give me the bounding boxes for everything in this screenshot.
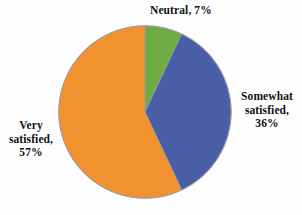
pie-chart-area	[58, 25, 232, 199]
pie-label-very-line1: Very	[0, 119, 62, 133]
pie-label-neutral: Neutral, 7%	[150, 4, 212, 18]
pie-slices	[59, 26, 231, 198]
pie-label-very-line3: 57%	[0, 146, 62, 160]
pie-chart-figure: Neutral, 7% Somewhat satisfied, 36% Very…	[0, 0, 302, 215]
pie-label-very-satisfied: Very satisfied, 57%	[0, 119, 62, 160]
pie-label-somewhat-line2: satisfied,	[232, 104, 302, 118]
pie-label-somewhat-line3: 36%	[232, 117, 302, 131]
pie-label-somewhat-line1: Somewhat	[232, 90, 302, 104]
pie-chart-svg	[58, 25, 232, 199]
pie-label-very-line2: satisfied,	[0, 133, 62, 147]
pie-label-somewhat-satisfied: Somewhat satisfied, 36%	[232, 90, 302, 131]
pie-label-neutral-text: Neutral, 7%	[150, 4, 212, 18]
